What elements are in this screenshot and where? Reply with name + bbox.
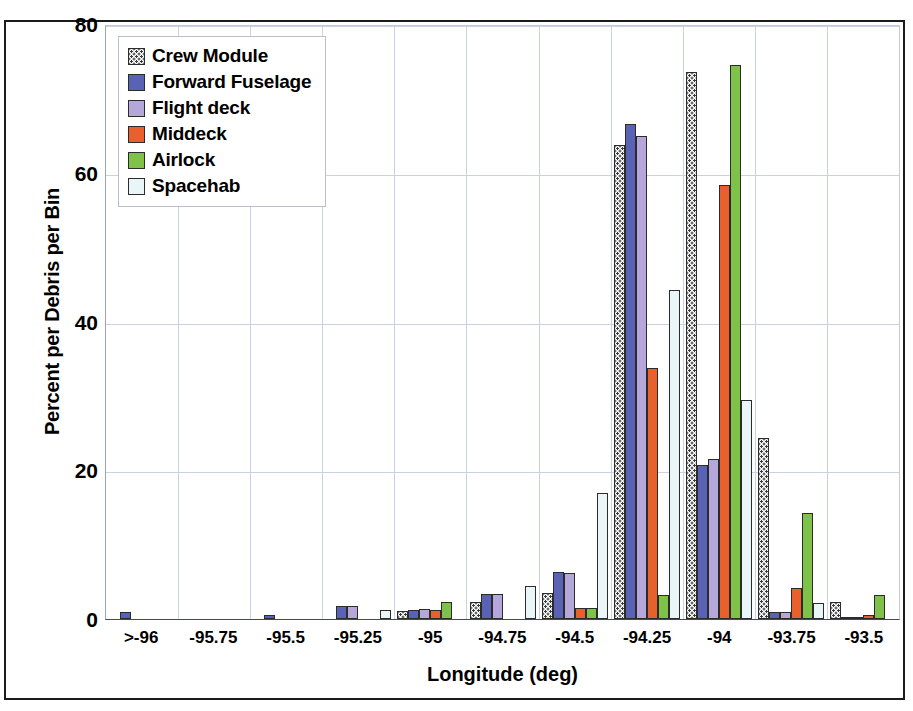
x-tick-label: -94.25 bbox=[611, 628, 683, 648]
crew-module-swatch bbox=[128, 48, 145, 65]
x-tick-label: >-96 bbox=[105, 628, 177, 648]
flight-deck-swatch bbox=[128, 100, 145, 117]
bar bbox=[852, 617, 863, 620]
legend-item: Flight deck bbox=[128, 95, 311, 121]
x-tick-label: -94.75 bbox=[466, 628, 538, 648]
legend-item: Middeck bbox=[128, 121, 311, 147]
bar bbox=[647, 368, 658, 619]
bar-chart-figure: Percent per Debris per Bin 020406080 >-9… bbox=[0, 0, 913, 711]
bar bbox=[813, 603, 824, 619]
bar bbox=[586, 608, 597, 619]
x-tick-label: -93.75 bbox=[755, 628, 827, 648]
x-tick-label: -95.5 bbox=[250, 628, 322, 648]
bar bbox=[614, 145, 625, 620]
y-tick-label: 40 bbox=[52, 311, 98, 335]
legend-item-label: Spacehab bbox=[152, 175, 240, 197]
chart-legend: Crew ModuleForward FuselageFlight deckMi… bbox=[118, 36, 326, 207]
bar-group bbox=[394, 26, 466, 619]
bar bbox=[791, 588, 802, 619]
legend-item-label: Crew Module bbox=[152, 45, 268, 67]
y-tick-label: 60 bbox=[52, 162, 98, 186]
bar-group bbox=[683, 26, 755, 619]
bar-group bbox=[827, 26, 899, 619]
y-tick-label: 0 bbox=[52, 608, 98, 632]
bar bbox=[397, 611, 408, 619]
bar bbox=[441, 602, 452, 619]
bar bbox=[874, 595, 885, 619]
bar bbox=[830, 602, 841, 619]
bar bbox=[564, 573, 575, 619]
bar bbox=[708, 459, 719, 619]
x-axis-tick-labels: >-96-95.75-95.5-95.25-95-94.75-94.5-94.2… bbox=[105, 628, 900, 648]
bar bbox=[802, 513, 813, 619]
bar bbox=[419, 609, 430, 619]
legend-item: Airlock bbox=[128, 147, 311, 173]
bar bbox=[686, 72, 697, 619]
bar bbox=[658, 595, 669, 619]
bar bbox=[636, 136, 647, 619]
x-tick-label: -94.5 bbox=[539, 628, 611, 648]
bar bbox=[336, 606, 347, 619]
bar bbox=[758, 438, 769, 619]
bar bbox=[525, 586, 536, 619]
middeck-swatch bbox=[128, 126, 145, 143]
bar bbox=[380, 610, 391, 619]
bar-group bbox=[755, 26, 827, 619]
x-tick-label: -95 bbox=[394, 628, 466, 648]
legend-item: Forward Fuselage bbox=[128, 69, 311, 95]
bar bbox=[841, 617, 852, 620]
y-axis-tick-labels: 020406080 bbox=[46, 0, 98, 711]
bar bbox=[430, 610, 441, 619]
bar bbox=[863, 615, 874, 619]
bar bbox=[597, 493, 608, 619]
bar bbox=[780, 612, 791, 619]
legend-item-label: Flight deck bbox=[152, 97, 250, 119]
bar bbox=[553, 572, 564, 619]
bar-group bbox=[611, 26, 683, 619]
legend-item: Crew Module bbox=[128, 43, 311, 69]
bar bbox=[481, 594, 492, 619]
bar bbox=[120, 612, 131, 619]
legend-item: Spacehab bbox=[128, 173, 311, 199]
bar bbox=[575, 608, 586, 619]
x-tick-label: -93.5 bbox=[828, 628, 900, 648]
forward-fuselage-swatch bbox=[128, 74, 145, 91]
x-axis-title: Longitude (deg) bbox=[105, 663, 900, 686]
bar bbox=[408, 610, 419, 619]
y-tick-label: 20 bbox=[52, 459, 98, 483]
x-tick-label: -95.75 bbox=[177, 628, 249, 648]
bar-group bbox=[322, 26, 394, 619]
y-tick-label: 80 bbox=[52, 13, 98, 37]
bar-group bbox=[539, 26, 611, 619]
bar bbox=[769, 612, 780, 619]
x-tick-label: -94 bbox=[683, 628, 755, 648]
bar bbox=[470, 602, 481, 619]
bar bbox=[697, 465, 708, 619]
bar bbox=[264, 615, 275, 619]
legend-item-label: Forward Fuselage bbox=[152, 71, 311, 93]
bar bbox=[542, 593, 553, 619]
airlock-swatch bbox=[128, 152, 145, 169]
x-tick-label: -95.25 bbox=[322, 628, 394, 648]
bar bbox=[730, 65, 741, 619]
bar bbox=[741, 400, 752, 619]
bar bbox=[347, 606, 358, 619]
spacehab-swatch bbox=[128, 178, 145, 195]
bar bbox=[719, 185, 730, 619]
bar-group bbox=[466, 26, 538, 619]
bar bbox=[669, 290, 680, 619]
bar bbox=[492, 594, 503, 619]
legend-item-label: Middeck bbox=[152, 123, 227, 145]
legend-item-label: Airlock bbox=[152, 149, 215, 171]
bar bbox=[625, 124, 636, 619]
